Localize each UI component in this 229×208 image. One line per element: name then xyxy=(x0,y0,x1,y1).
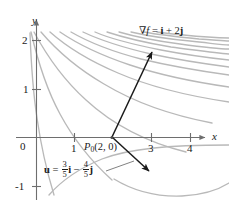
x-tick-label-3: 3 xyxy=(148,143,154,154)
direction-i-fraction: 3 5 xyxy=(62,160,68,179)
direction-i-numerator: 3 xyxy=(62,160,68,169)
y-tick-label-neg1: -1 xyxy=(15,181,24,192)
x-tick-label-4: 4 xyxy=(187,143,193,154)
direction-j-unit: j xyxy=(90,164,94,175)
gradient-symbol: ∇f xyxy=(139,25,149,36)
y-axis-label: y xyxy=(32,15,37,26)
point-p0-coords: (2, 0) xyxy=(94,141,117,152)
direction-i-denominator: 5 xyxy=(62,169,68,179)
gradient-vector-label: ∇f = i + 2j xyxy=(139,26,183,37)
gradient-equals: = xyxy=(152,25,158,36)
direction-equals: = xyxy=(52,164,58,175)
gradient-i-unit: i xyxy=(160,25,163,36)
gradient-plus: + xyxy=(166,25,172,36)
x-axis-label: x xyxy=(212,131,217,142)
y-tick-label-2: 2 xyxy=(22,35,28,46)
point-p0-marker xyxy=(110,136,113,139)
gradient-j-unit: j xyxy=(180,25,184,36)
point-p0-label: P0(2, 0) xyxy=(84,142,117,154)
direction-i-unit: i xyxy=(68,164,71,175)
direction-j-numerator: 4 xyxy=(83,160,89,169)
direction-vector-label: u = 3 5 i − 4 5 j xyxy=(44,160,93,179)
y-tick-label-1: 1 xyxy=(23,84,29,95)
plot-canvas xyxy=(0,0,229,208)
x-tick-label-1: 1 xyxy=(71,143,77,154)
direction-label-leader-line xyxy=(106,161,134,171)
direction-symbol: u xyxy=(44,164,50,175)
gradient-vector-arrow xyxy=(112,52,152,137)
direction-j-denominator: 5 xyxy=(83,169,89,179)
direction-j-fraction: 4 5 xyxy=(83,160,89,179)
level-curve-figure: x y 0 1 3 4 2 1 -1 P0(2, 0) ∇f = i + 2j … xyxy=(0,0,229,208)
level-curve-lower-tail xyxy=(114,179,229,196)
direction-minus: − xyxy=(74,164,80,175)
origin-tick-label: 0 xyxy=(20,141,26,152)
